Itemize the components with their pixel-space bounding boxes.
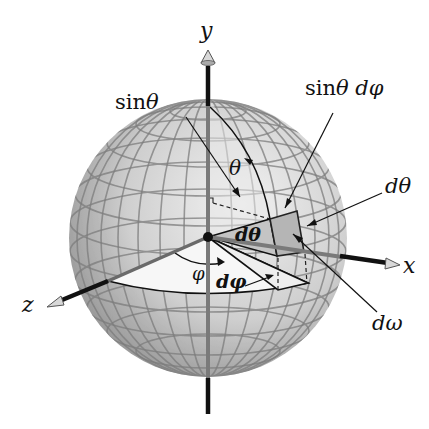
dtheta-outer-label: dθ (385, 176, 411, 197)
y-axis-label: y (200, 20, 212, 42)
y-axis-arrowhead (201, 50, 215, 66)
dtheta-inner-label: dθ (235, 225, 261, 244)
domega-label: dω (372, 313, 403, 334)
solid-angle-diagram: y x z sinθ θ sinθ dφ dθ dθ φ dφ dω (0, 0, 429, 429)
theta-dphi-symbols: θ dφ (336, 76, 383, 100)
x-axis-label: x (403, 255, 415, 277)
x-axis-outer (340, 256, 388, 263)
theta-label: θ (229, 158, 241, 178)
z-axis-arrowhead (47, 296, 64, 307)
phi-label: φ (192, 265, 205, 283)
sphere-figure (0, 0, 429, 429)
z-axis-label: z (22, 294, 34, 316)
sin-function: sin (115, 90, 146, 114)
origin-point (203, 232, 213, 242)
x-axis-arrowhead (385, 258, 400, 269)
sin-function: sin (305, 76, 336, 100)
sin-theta-label: sinθ (115, 92, 159, 113)
theta-symbol: θ (146, 90, 159, 114)
dphi-label: dφ (216, 272, 246, 291)
sin-theta-dphi-label: sinθ dφ (305, 78, 384, 99)
